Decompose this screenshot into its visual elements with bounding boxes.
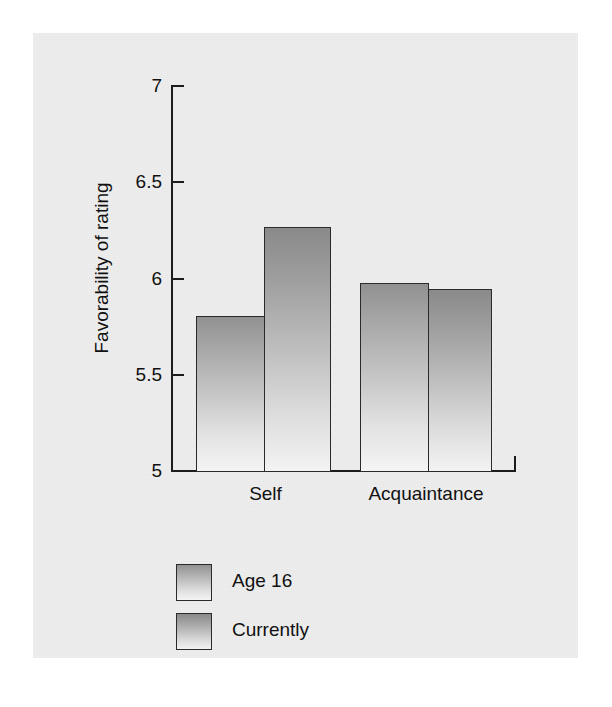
- legend-label-age16: Age 16: [232, 570, 292, 592]
- figure-page: 7 6.5 6 5.5 5 Favorability of rating Sel…: [0, 0, 612, 707]
- y-tick-6-5: [173, 181, 184, 183]
- y-tick-7: [173, 85, 184, 87]
- x-tick-label-self: Self: [218, 483, 313, 505]
- bar-chart: 7 6.5 6 5.5 5 Favorability of rating Sel…: [0, 0, 612, 707]
- bar-self-age16[interactable]: [196, 316, 265, 472]
- y-tick-label-5-5: 5.5: [116, 365, 162, 384]
- y-tick-label-5: 5: [116, 461, 162, 480]
- legend-swatch-currently: [176, 613, 212, 650]
- y-tick-label-7: 7: [116, 76, 162, 95]
- y-tick-6: [173, 278, 184, 280]
- bar-acquaintance-currently[interactable]: [428, 289, 492, 472]
- y-tick-label-6-5: 6.5: [116, 172, 162, 191]
- y-tick-5: [173, 470, 184, 472]
- x-axis-end-tick: [514, 456, 516, 472]
- x-tick-label-acquaintance: Acquaintance: [340, 483, 512, 505]
- y-tick-label-group: 7 6.5 6 5.5 5: [116, 0, 162, 707]
- legend-label-currently: Currently: [232, 619, 309, 641]
- bar-acquaintance-age16[interactable]: [360, 283, 429, 472]
- legend-swatch-age16: [176, 564, 212, 601]
- y-tick-label-6: 6: [116, 269, 162, 288]
- bar-self-currently[interactable]: [264, 227, 331, 472]
- y-tick-5-5: [173, 374, 184, 376]
- y-axis-title: Favorability of rating: [91, 148, 113, 388]
